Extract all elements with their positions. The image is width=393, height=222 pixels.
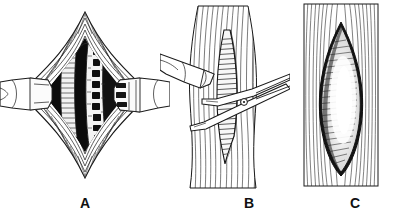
panel-label-b: B <box>239 193 259 213</box>
panel-c-illustration <box>288 0 393 190</box>
panel-a-illustration <box>0 0 170 190</box>
opening-floor <box>330 56 356 144</box>
panel-b-illustration <box>160 0 290 190</box>
panel-label-a: A <box>75 193 95 213</box>
left-retractor[interactable] <box>0 78 52 110</box>
panel-label-c: C <box>345 193 365 213</box>
figure-root: A B C <box>0 0 393 222</box>
panel-label-row: A B C <box>0 193 393 222</box>
